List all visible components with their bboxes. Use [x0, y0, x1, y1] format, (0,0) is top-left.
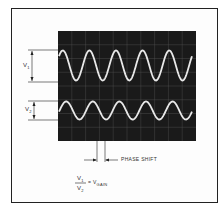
- v1-label-sub: 1: [27, 65, 30, 70]
- formula-equals: = V: [88, 179, 97, 185]
- v2-arrow-down: [33, 115, 36, 119]
- formula-result-sub: GAIN: [97, 182, 108, 187]
- v1-arrow-down: [31, 77, 34, 81]
- phase-shift-label: PHASE SHIFT: [121, 156, 157, 162]
- phase-arrow-right-head: [105, 159, 109, 162]
- v2-arrow-up: [33, 102, 36, 106]
- formula-denominator: V2: [77, 185, 84, 193]
- v1-arrow-up: [31, 51, 34, 55]
- formula-numerator-sub: 1: [81, 178, 84, 183]
- phase-arrow-left-head: [93, 159, 97, 162]
- formula-result: = VGAIN: [88, 179, 108, 187]
- v1-label: V1: [23, 62, 30, 70]
- formula-denominator-sub: 2: [81, 188, 84, 193]
- v2-label: V2: [25, 106, 32, 114]
- oscilloscope-diagram: [0, 0, 223, 212]
- v2-label-sub: 2: [29, 109, 32, 114]
- formula-numerator: V1: [77, 175, 84, 183]
